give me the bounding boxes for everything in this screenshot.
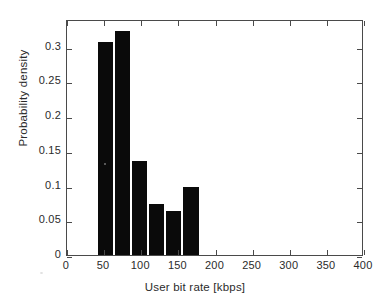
x-tick-top bbox=[178, 21, 179, 26]
x-tick bbox=[290, 250, 291, 255]
x-tick-label: 250 bbox=[232, 259, 272, 271]
x-tick-top bbox=[67, 21, 68, 26]
figure-canvas: 050100150200250300350400 00.050.10.150.2… bbox=[0, 0, 390, 306]
x-tick-label: 0 bbox=[46, 259, 86, 271]
y-tick-label: 0 bbox=[17, 248, 61, 260]
x-tick bbox=[216, 250, 217, 255]
x-axis-title: User bit rate [kbps] bbox=[0, 281, 390, 293]
x-tick-top bbox=[253, 21, 254, 26]
bar-series bbox=[67, 21, 362, 255]
y-tick-right bbox=[357, 118, 362, 119]
x-tick-label: 200 bbox=[195, 259, 235, 271]
x-tick bbox=[364, 250, 365, 255]
y-tick-label: 0.1 bbox=[17, 179, 61, 191]
bar bbox=[183, 187, 199, 255]
x-tick-top bbox=[290, 21, 291, 26]
x-tick bbox=[104, 250, 105, 255]
bar bbox=[132, 161, 147, 255]
y-tick bbox=[67, 83, 72, 84]
y-tick bbox=[67, 49, 72, 50]
x-tick bbox=[141, 250, 142, 255]
scan-artifact bbox=[40, 272, 43, 274]
bar bbox=[115, 31, 130, 255]
x-tick-label: 50 bbox=[83, 259, 123, 271]
y-tick-right bbox=[357, 83, 362, 84]
y-tick bbox=[67, 118, 72, 119]
x-tick-top bbox=[327, 21, 328, 26]
x-tick-top bbox=[141, 21, 142, 26]
x-tick bbox=[178, 250, 179, 255]
x-tick-top bbox=[104, 21, 105, 26]
x-tick bbox=[253, 250, 254, 255]
y-tick-right bbox=[357, 49, 362, 50]
x-tick-label: 300 bbox=[269, 259, 309, 271]
x-tick-label: 350 bbox=[306, 259, 346, 271]
scan-artifact bbox=[104, 163, 106, 165]
y-tick-right bbox=[357, 257, 362, 258]
y-tick bbox=[67, 222, 72, 223]
x-tick-label: 100 bbox=[120, 259, 160, 271]
x-tick bbox=[327, 250, 328, 255]
x-tick-top bbox=[216, 21, 217, 26]
y-tick-right bbox=[357, 188, 362, 189]
y-tick-label: 0.05 bbox=[17, 213, 61, 225]
bar bbox=[149, 204, 164, 255]
y-tick bbox=[67, 153, 72, 154]
y-axis-title: Probability density bbox=[17, 38, 29, 158]
x-tick-label: 400 bbox=[343, 259, 383, 271]
y-tick bbox=[67, 257, 72, 258]
x-tick-label: 150 bbox=[157, 259, 197, 271]
x-tick bbox=[67, 250, 68, 255]
y-tick-right bbox=[357, 222, 362, 223]
plot-area bbox=[66, 20, 363, 256]
y-tick bbox=[67, 188, 72, 189]
bar bbox=[166, 211, 181, 255]
y-tick-right bbox=[357, 153, 362, 154]
bar bbox=[98, 42, 113, 255]
x-tick-top bbox=[364, 21, 365, 26]
